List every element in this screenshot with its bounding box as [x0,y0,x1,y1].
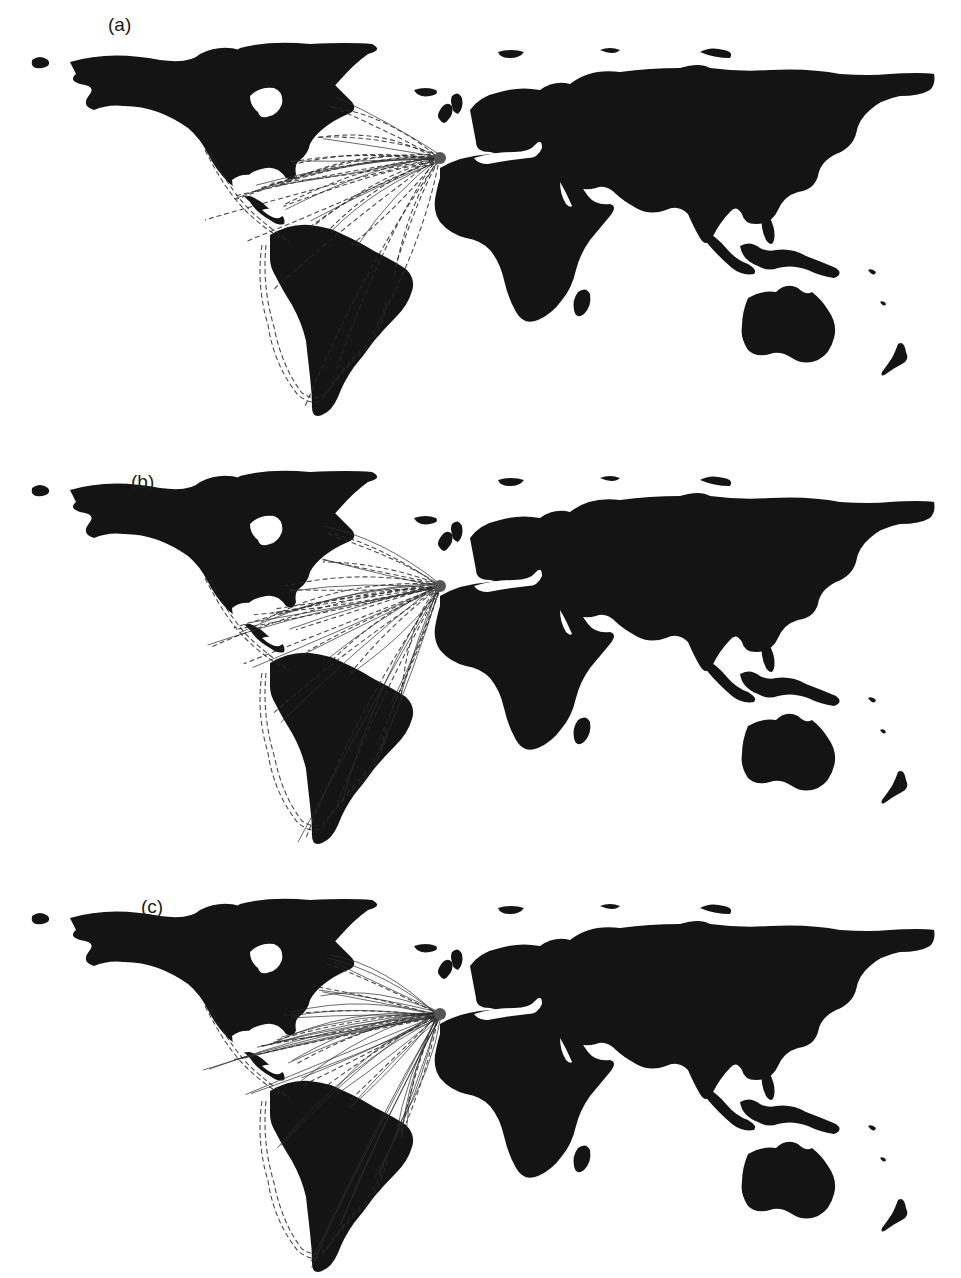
landmass [882,1199,908,1232]
landmass [498,50,524,58]
water-body [232,1031,261,1053]
landmass [742,286,836,363]
origin-port-marker [434,580,446,592]
map-a [0,0,961,420]
water-body [658,1088,670,1096]
landmass [600,904,620,909]
landmass [700,476,731,486]
panel-label-c: (c) [141,896,163,918]
landmass [451,93,463,114]
landmass [740,1099,840,1134]
solid-route [300,1011,440,1082]
map-c [0,856,961,1278]
origin-port-marker [434,152,446,164]
solid-route [335,963,440,1013]
landmass [742,714,836,791]
origin-port-marker [434,1008,446,1020]
landmass [742,1142,836,1219]
panel-label-a: (a) [108,14,131,36]
landmass [498,906,524,914]
water-body [658,232,670,240]
landmass [574,289,591,316]
landmass [438,960,453,979]
landmass [600,48,620,53]
landmass [700,48,731,58]
water-body [658,660,670,668]
landmass [438,532,453,551]
landmass [740,671,840,706]
landmass [880,1157,886,1161]
landmass [882,771,908,804]
landmass [498,478,524,486]
landmass [32,913,49,924]
landmass [451,949,463,970]
landmass [270,653,413,844]
panel-a [0,0,961,420]
landmass [882,343,908,376]
landmass [438,104,453,123]
landmass [451,521,463,542]
landmass [414,88,437,96]
landmass [414,516,437,524]
landmass [868,1125,876,1130]
landmass [880,301,886,305]
landmass [868,697,876,702]
dashed-route [323,562,442,586]
landmass [868,269,876,274]
landmass [414,944,437,952]
panel-c [0,856,961,1276]
landmass [880,729,886,733]
panel-label-b: (b) [131,471,154,493]
landmass [600,476,620,481]
landmass [740,243,840,278]
landmass [32,57,49,68]
landmass [32,485,49,496]
solid-route [245,1015,439,1095]
landmass [574,717,591,744]
dashed-route [316,137,441,156]
landmass [574,1145,591,1172]
landmass [700,904,731,914]
landmass [270,225,413,416]
